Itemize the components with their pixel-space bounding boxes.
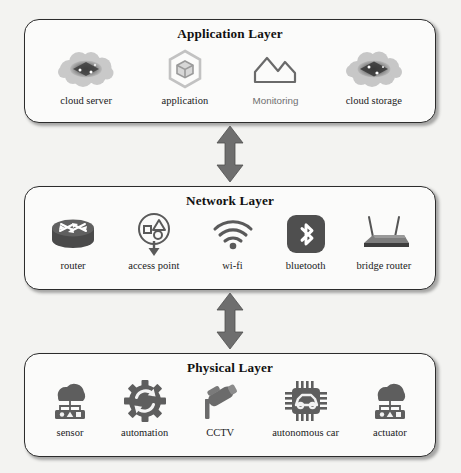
- router-icon: [48, 211, 98, 257]
- arrow-network-physical: [210, 291, 250, 351]
- actuator-icon: [367, 378, 413, 424]
- layer-physical: Physical Layer: [24, 353, 436, 457]
- layer-network-title: Network Layer: [25, 193, 435, 209]
- item-bridge-router: bridge router: [356, 211, 412, 271]
- cctv-camera-icon: [196, 378, 244, 424]
- layer-physical-items: sensor: [25, 378, 435, 438]
- item-router: router: [48, 211, 98, 271]
- layer-network-items: router access point: [25, 211, 435, 271]
- item-label: router: [61, 260, 86, 271]
- item-label: autonomous car: [272, 427, 339, 438]
- item-label: application: [161, 95, 208, 106]
- item-label: sensor: [57, 427, 84, 438]
- cloud-storage-icon: [343, 46, 405, 92]
- item-label: actuator: [373, 427, 407, 438]
- cloud-server-icon: [55, 46, 117, 92]
- item-label: bluetooth: [286, 260, 326, 271]
- item-label: cloud server: [60, 95, 112, 106]
- item-autonomous-car: autonomous car: [272, 378, 339, 438]
- item-application: application: [161, 46, 208, 106]
- sensor-icon: [47, 378, 93, 424]
- item-label: Monitoring: [253, 95, 299, 106]
- item-monitoring: Monitoring: [252, 46, 298, 106]
- item-cloud-storage: cloud storage: [343, 46, 405, 106]
- hexagon-cube-icon: [166, 46, 204, 92]
- mountain-chart-icon: [252, 46, 298, 92]
- item-label: wi-fi: [222, 260, 242, 271]
- item-label: automation: [121, 427, 168, 438]
- item-sensor: sensor: [47, 378, 93, 438]
- bridge-router-icon: [356, 211, 412, 257]
- item-label: cloud storage: [346, 95, 402, 106]
- iot-architecture-diagram: Application Layer: [0, 0, 461, 473]
- layer-application-title: Application Layer: [25, 26, 435, 42]
- automation-gear-icon: [123, 378, 167, 424]
- item-label: bridge router: [357, 260, 412, 271]
- item-bluetooth: bluetooth: [286, 211, 326, 271]
- item-label: access point: [128, 260, 179, 271]
- wifi-icon: [210, 211, 256, 257]
- bluetooth-icon: [286, 211, 326, 257]
- item-label: CCTV: [206, 427, 234, 438]
- item-wifi: wi-fi: [210, 211, 256, 271]
- autonomous-car-icon: [283, 378, 329, 424]
- layer-application: Application Layer: [24, 19, 436, 123]
- layer-network: Network Layer: [24, 186, 436, 290]
- access-point-icon: [132, 211, 176, 257]
- item-automation: automation: [121, 378, 168, 438]
- item-access-point: access point: [128, 211, 179, 271]
- item-cctv: CCTV: [196, 378, 244, 438]
- layer-physical-title: Physical Layer: [25, 360, 435, 376]
- item-cloud-server: cloud server: [55, 46, 117, 106]
- arrow-application-network: [210, 124, 250, 184]
- item-actuator: actuator: [367, 378, 413, 438]
- layer-application-items: cloud server application: [25, 46, 435, 106]
